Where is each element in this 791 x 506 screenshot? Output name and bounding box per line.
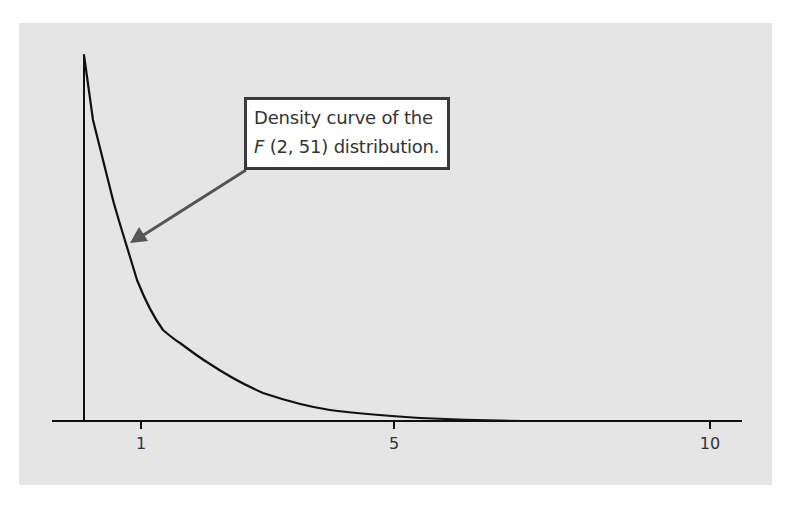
annotation-arrow-shaft [142,170,246,236]
x-tick-label-1: 1 [136,434,146,453]
annotation-callout-box: Density curve of the F (2, 51) distribut… [244,97,450,170]
x-tick-label-10: 10 [700,434,720,453]
callout-line-2-rest: (2, 51) distribution. [264,136,439,157]
callout-f-symbol: F [254,136,264,157]
density-plot [0,0,791,506]
callout-line-1: Density curve of the [254,107,433,128]
x-tick-label-5: 5 [389,434,399,453]
callout-line-2: F (2, 51) distribution. [254,136,439,157]
